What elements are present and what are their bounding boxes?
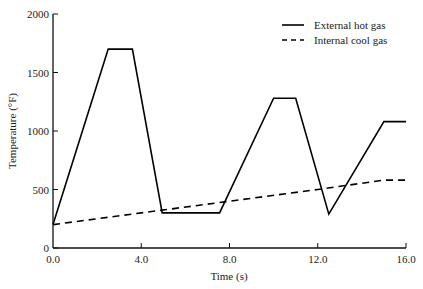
series-external-hot-gas [53,49,406,225]
y-axis-label: Temperature (°F) [6,93,19,169]
y-tick-label: 500 [33,184,50,196]
y-tick-label: 1000 [27,125,50,137]
series-internal-cool-gas [53,180,406,225]
x-tick-label: 0.0 [46,253,60,265]
axes: 05001000150020000.04.08.012.016.0 [27,8,416,265]
y-tick-label: 1500 [27,67,50,79]
x-axis-label: Time (s) [210,270,248,283]
legend: External hot gasInternal cool gas [282,19,387,46]
x-tick-label: 4.0 [134,253,148,265]
x-tick-label: 8.0 [223,253,237,265]
x-tick-label: 16.0 [396,253,416,265]
plot-area [53,49,406,225]
line-chart: 05001000150020000.04.08.012.016.0 Extern… [0,0,423,289]
legend-label: External hot gas [314,19,385,31]
legend-label: Internal cool gas [314,34,387,46]
y-tick-label: 2000 [27,8,50,20]
x-tick-label: 12.0 [308,253,328,265]
